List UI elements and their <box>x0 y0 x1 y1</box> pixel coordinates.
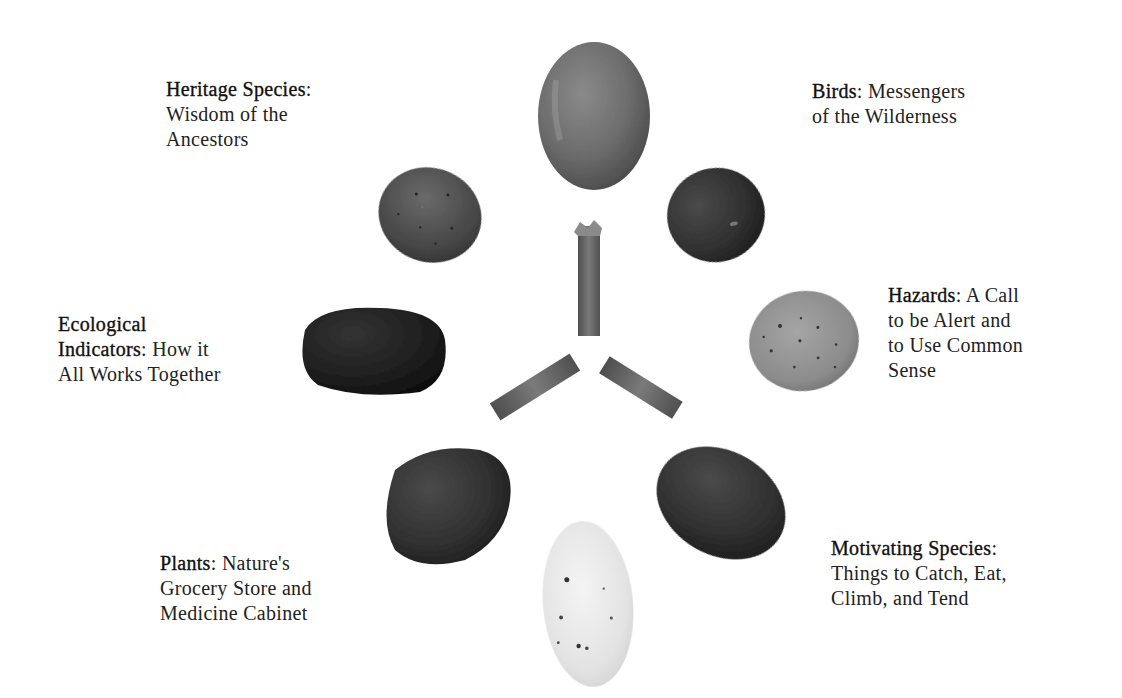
stone-right <box>741 282 867 400</box>
stone-left <box>302 308 445 395</box>
stone-lower-left <box>387 448 511 564</box>
stick-lower-left <box>490 354 580 421</box>
stone-upper-right <box>657 157 776 273</box>
stone-upper-left <box>365 153 495 277</box>
stick-lower-right <box>599 356 683 419</box>
stick-top <box>574 220 602 336</box>
stone-bottom <box>536 517 640 690</box>
stones-layer <box>0 0 1122 698</box>
stone-top <box>538 42 650 190</box>
stone-lower-right <box>636 424 806 582</box>
